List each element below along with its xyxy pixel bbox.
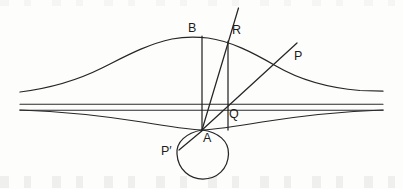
- label-point-p-prime: P′: [161, 145, 172, 158]
- label-point-b: B: [188, 22, 196, 35]
- ray-a-p: [202, 43, 297, 130]
- diagram-svg: [0, 0, 403, 189]
- label-point-q: Q: [229, 108, 239, 121]
- label-point-a: A: [203, 132, 211, 145]
- figure-canvas: B R P Q A P′: [0, 0, 403, 189]
- label-point-p: P: [294, 50, 302, 63]
- label-point-r: R: [232, 24, 241, 37]
